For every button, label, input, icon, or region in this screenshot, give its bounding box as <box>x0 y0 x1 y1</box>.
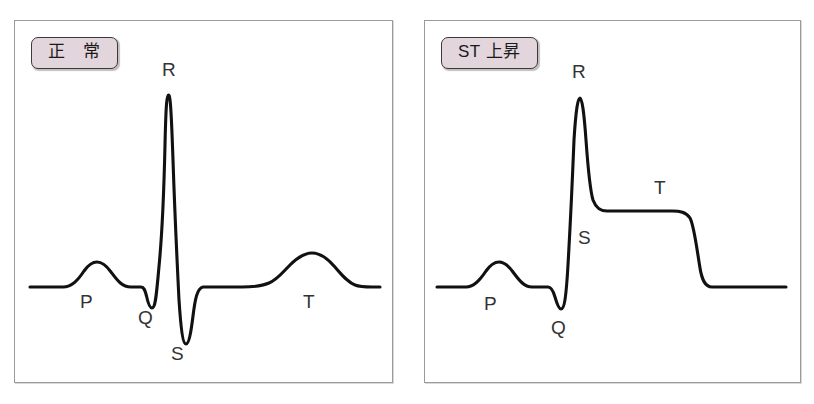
wave-label-normal-q: Q <box>138 308 153 327</box>
wave-label-normal-s: S <box>171 344 184 363</box>
wave-label-st-elevation-r: R <box>572 62 586 81</box>
ecg-traces <box>0 0 814 404</box>
wave-label-st-elevation-t: T <box>654 178 666 197</box>
wave-label-normal-r: R <box>162 60 176 79</box>
wave-label-normal-p: P <box>80 292 93 311</box>
ecg-diagram: 正 常 ST 上昇 PQRSTPQRST <box>0 0 814 404</box>
wave-label-st-elevation-p: P <box>484 294 497 313</box>
wave-label-normal-t: T <box>303 292 315 311</box>
ecg-trace-st-elevation <box>437 98 786 309</box>
wave-label-st-elevation-s: S <box>578 228 591 247</box>
wave-label-st-elevation-q: Q <box>551 318 566 337</box>
